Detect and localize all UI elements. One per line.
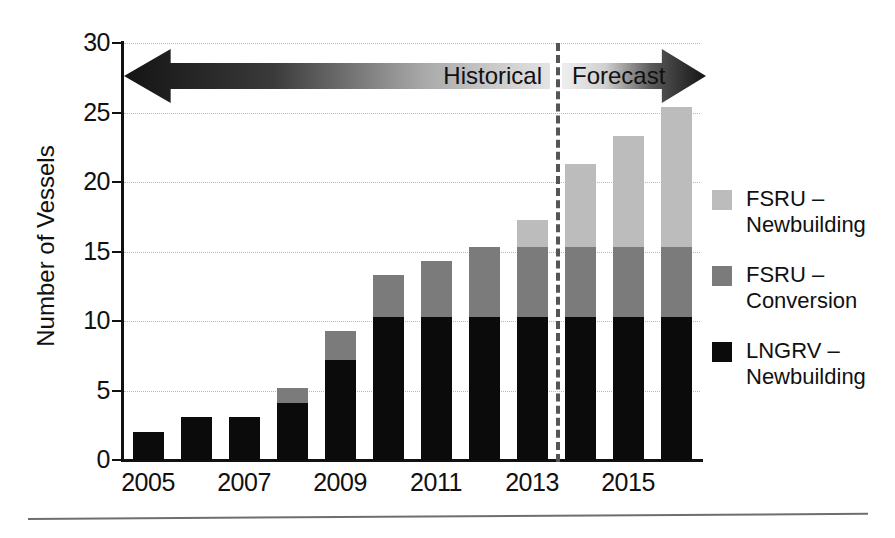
legend-item-fsru-conversion: FSRU – Conversion <box>712 262 892 314</box>
y-axis-tick-mark <box>112 112 122 114</box>
bar-segment <box>373 275 404 317</box>
y-axis-tick-mark <box>112 320 122 322</box>
y-axis-tick-label: 0 <box>50 447 110 472</box>
y-axis-tick-mark <box>112 42 122 44</box>
bar-segment <box>421 317 452 460</box>
legend-label: FSRU – Conversion <box>746 262 892 314</box>
x-axis-tick-label: 2005 <box>108 468 188 496</box>
bar-2010 <box>373 43 404 460</box>
y-axis-tick-mark <box>112 459 122 461</box>
bar-segment <box>517 247 548 317</box>
legend-label: FSRU – Newbuilding <box>746 186 892 238</box>
y-axis-tick-label: 10 <box>50 308 110 333</box>
forecast-arrow: Forecast <box>562 47 706 105</box>
y-axis-tick-label: 5 <box>50 378 110 403</box>
bar-segment <box>373 317 404 460</box>
legend-swatch-icon <box>712 266 732 286</box>
x-axis-tick-label: 2015 <box>588 468 668 496</box>
timeline-arrows: Historical Forecast <box>124 47 700 105</box>
bar-segment <box>661 107 692 247</box>
bar-segment <box>469 247 500 317</box>
bar-2016 <box>661 43 692 460</box>
bar-segment <box>565 164 596 247</box>
bar-segment <box>421 261 452 317</box>
legend-swatch-icon <box>712 342 732 362</box>
x-axis-tick-label: 2009 <box>300 468 380 496</box>
bar-segment <box>613 136 644 247</box>
bar-segment <box>325 331 356 360</box>
bar-2005 <box>133 43 164 460</box>
bar-segment <box>181 417 212 460</box>
bar-2012 <box>469 43 500 460</box>
bar-2009 <box>325 43 356 460</box>
legend-item-fsru-newbuilding: FSRU – Newbuilding <box>712 186 892 238</box>
x-axis-tick-label: 2013 <box>492 468 572 496</box>
bar-segment <box>133 432 164 460</box>
bar-segment <box>517 317 548 460</box>
footer-divider <box>28 513 868 520</box>
y-axis-tick-mark <box>112 390 122 392</box>
forecast-arrow-label: Forecast <box>572 64 665 88</box>
historical-arrow: Historical <box>124 47 550 105</box>
bar-2008 <box>277 43 308 460</box>
bar-2011 <box>421 43 452 460</box>
y-axis-tick-mark <box>112 251 122 253</box>
bar-segment <box>229 417 260 460</box>
legend-label: LNGRV – Newbuilding <box>746 338 892 390</box>
bar-segment <box>325 360 356 460</box>
bar-2015 <box>613 43 644 460</box>
bar-segment <box>565 317 596 460</box>
y-axis-tick-label: 30 <box>50 30 110 55</box>
forecast-divider <box>556 43 560 462</box>
bar-segment <box>613 247 644 317</box>
bar-2006 <box>181 43 212 460</box>
bar-2013 <box>517 43 548 460</box>
legend-item-lngrv-newbuilding: LNGRV – Newbuilding <box>712 338 892 390</box>
y-axis-tick-label: 20 <box>50 169 110 194</box>
chart-legend: FSRU – NewbuildingFSRU – ConversionLNGRV… <box>712 186 892 414</box>
y-axis-tick-label: 15 <box>50 239 110 264</box>
y-axis-tick-label: 25 <box>50 100 110 125</box>
bar-segment <box>661 317 692 460</box>
bar-segment <box>517 220 548 248</box>
chart-figure: Number of Vessels 051015202530 Histor <box>0 0 895 538</box>
y-axis-tick-mark <box>112 181 122 183</box>
bar-2014 <box>565 43 596 460</box>
x-axis-tick-label: 2011 <box>396 468 476 496</box>
bar-2007 <box>229 43 260 460</box>
bar-segment <box>613 317 644 460</box>
y-axis-tick-labels: 051015202530 <box>42 0 110 538</box>
plot-area <box>124 43 700 460</box>
historical-arrow-label: Historical <box>443 64 542 88</box>
x-axis-tick-label: 2007 <box>204 468 284 496</box>
bar-segment <box>565 247 596 317</box>
bar-segment <box>277 403 308 460</box>
bar-segment <box>661 247 692 317</box>
bar-segment <box>277 388 308 403</box>
bar-segment <box>469 317 500 460</box>
legend-swatch-icon <box>712 190 732 210</box>
